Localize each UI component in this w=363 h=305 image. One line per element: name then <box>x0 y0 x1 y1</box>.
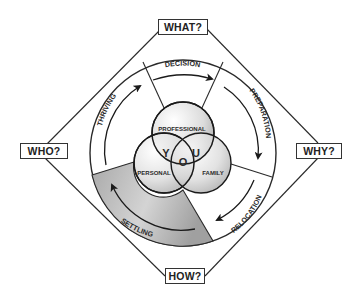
venn-letter-y: Y <box>162 147 170 159</box>
corner-label-why: WHY? <box>296 143 342 159</box>
venn-label-professional: PROFESSIONAL <box>158 126 206 132</box>
venn-letter-u: U <box>192 147 200 159</box>
corner-label-who: WHO? <box>20 143 68 159</box>
venn-label-personal: PERSONAL <box>137 170 171 176</box>
corner-label-what: WHAT? <box>158 19 208 35</box>
venn-letter-o: O <box>179 156 188 168</box>
relocation-cycle-diagram: DECISION PREPARATION RELOCATION SETTLING… <box>0 0 363 305</box>
venn-label-family: FAMILY <box>202 170 223 176</box>
corner-label-how: HOW? <box>165 268 205 284</box>
